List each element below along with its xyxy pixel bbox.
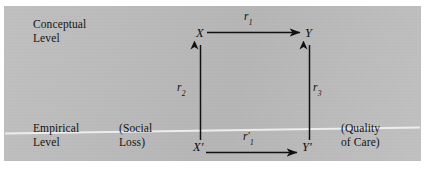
coefficient-r3: r3 [313,82,321,94]
conceptual-level-label: Conceptual Level [33,18,86,45]
coefficient-r2: r2 [177,82,185,94]
coefficient-r2-symbol: r [177,81,181,93]
coefficient-r3-subscript: 3 [318,89,322,98]
social-loss-annotation: (Social Loss) [119,122,152,149]
node-label-y: Y [305,27,312,40]
node-label-y-prime: Y′ [302,141,312,154]
coefficient-r2-subscript: 2 [182,89,186,98]
node-label-x-prime: X′ [193,141,203,154]
coefficient-r1-prime: r′1 [243,131,253,143]
coefficient-r3-symbol: r [313,81,317,93]
quality-of-care-annotation: (Quality of Care) [341,122,380,149]
path-diagram-figure: Conceptual Level Empirical Level (Social… [0,0,426,169]
coefficient-r1-prime-subscript: 1 [250,138,254,147]
coefficient-r1: r1 [244,11,252,23]
node-label-x: X [196,27,204,40]
coefficient-r1-symbol: r [244,10,248,22]
coefficient-r1-subscript: 1 [249,18,253,27]
empirical-level-label: Empirical Level [33,122,79,149]
